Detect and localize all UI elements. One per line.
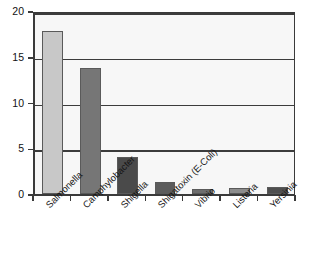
y-tick-label-20: 20 — [0, 6, 24, 17]
gridline-10 — [34, 105, 294, 107]
gridline-5 — [34, 150, 294, 152]
gridline-15 — [34, 59, 294, 61]
y-tick-10 — [28, 103, 33, 105]
gridline-20 — [34, 13, 294, 15]
x-tick-5 — [219, 195, 221, 201]
x-tick-2 — [107, 195, 109, 201]
x-tick-1 — [70, 195, 72, 201]
bar-salmonella — [42, 31, 63, 194]
bar-chart: 05101520 SalmonellaCamphylobacterShigell… — [0, 0, 309, 263]
y-tick-5 — [28, 149, 33, 151]
y-tick-label-15: 15 — [0, 52, 24, 63]
x-tick-7 — [294, 195, 296, 201]
x-tick-3 — [145, 195, 147, 201]
plot-area — [33, 12, 295, 195]
y-tick-15 — [28, 57, 33, 59]
y-tick-label-10: 10 — [0, 98, 24, 109]
y-axis-line — [33, 12, 35, 195]
y-tick-label-0: 0 — [0, 189, 24, 200]
y-tick-label-5: 5 — [0, 143, 24, 154]
x-tick-6 — [257, 195, 259, 201]
y-tick-20 — [28, 11, 33, 13]
x-tick-4 — [182, 195, 184, 201]
x-tick-0 — [32, 195, 34, 201]
